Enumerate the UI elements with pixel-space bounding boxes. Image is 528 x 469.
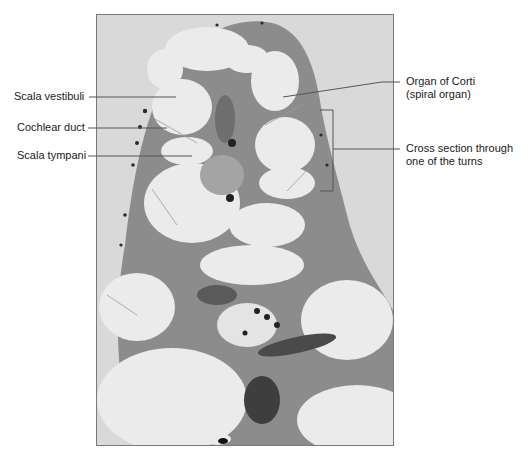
label-line-1: Cross section through bbox=[406, 142, 513, 155]
figure: Scala vestibuli Cochlear duct Scala tymp… bbox=[0, 0, 528, 469]
cochlea-micrograph bbox=[96, 14, 394, 446]
label-line-2: (spiral organ) bbox=[406, 88, 475, 101]
label-text: Scala vestibuli bbox=[14, 90, 84, 102]
label-cochlear-duct: Cochlear duct bbox=[17, 121, 85, 134]
label-text: Scala tympani bbox=[17, 149, 86, 161]
label-organ-of-corti: Organ of Corti (spiral organ) bbox=[406, 75, 475, 101]
label-scala-vestibuli: Scala vestibuli bbox=[14, 90, 84, 103]
micrograph-drawing bbox=[97, 15, 394, 446]
label-text: Cochlear duct bbox=[17, 121, 85, 133]
label-line-2: one of the turns bbox=[406, 155, 513, 168]
label-scala-tympani: Scala tympani bbox=[17, 149, 86, 162]
label-cross-section: Cross section through one of the turns bbox=[406, 142, 513, 168]
label-line-1: Organ of Corti bbox=[406, 75, 475, 88]
